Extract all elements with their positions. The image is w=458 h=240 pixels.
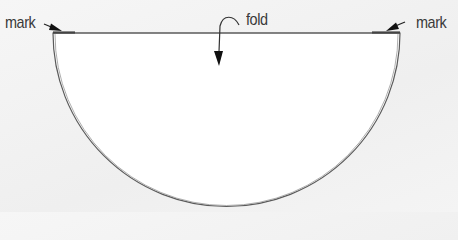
label-mark-right: mark	[416, 14, 446, 31]
semicircle-diagram	[0, 0, 458, 212]
diagram-canvas: mark fold mark	[0, 0, 458, 212]
arrow-mark-left-icon	[44, 24, 62, 32]
label-fold: fold	[246, 11, 268, 28]
semicircle-shape	[53, 33, 400, 207]
arrow-mark-right-icon	[386, 22, 405, 31]
label-mark-left: mark	[5, 14, 35, 31]
